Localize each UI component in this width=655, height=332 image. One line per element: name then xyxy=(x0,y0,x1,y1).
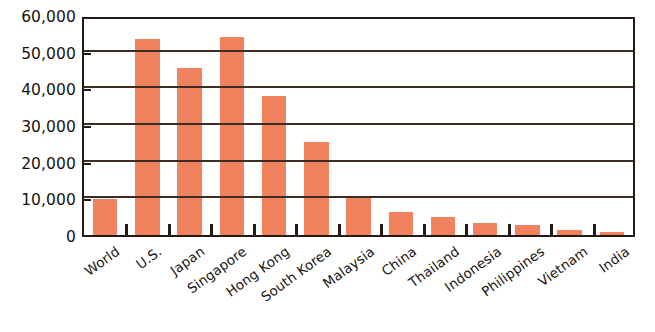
bar[interactable] xyxy=(93,199,117,235)
bar[interactable] xyxy=(600,232,624,235)
y-axis-label: 10,000 xyxy=(2,191,76,209)
x-axis-tick xyxy=(465,224,468,235)
x-axis-tick xyxy=(338,224,341,235)
y-axis-label: 40,000 xyxy=(2,81,76,99)
x-axis-tick xyxy=(168,224,171,235)
bar[interactable] xyxy=(177,68,201,235)
gridline xyxy=(84,50,633,52)
y-axis-label: 0 xyxy=(2,228,76,246)
plot-area xyxy=(82,17,635,237)
y-axis-label: 20,000 xyxy=(2,155,76,173)
bar[interactable] xyxy=(135,39,159,235)
x-axis-tick xyxy=(550,224,553,235)
x-axis-tick xyxy=(210,224,213,235)
x-axis-tick xyxy=(125,224,128,235)
bar[interactable] xyxy=(262,96,286,235)
y-axis-tick xyxy=(82,163,91,165)
y-axis-tick xyxy=(82,53,91,55)
x-axis-category-label: India xyxy=(596,243,633,276)
x-axis-tick xyxy=(593,224,596,235)
y-axis-tick xyxy=(82,89,91,91)
x-axis-tick xyxy=(508,224,511,235)
y-axis-tick xyxy=(82,126,91,128)
bar[interactable] xyxy=(431,217,455,235)
gridline xyxy=(84,123,633,125)
x-axis-tick xyxy=(253,224,256,235)
y-axis-label: 60,000 xyxy=(2,8,76,26)
x-axis-tick xyxy=(380,224,383,235)
x-axis-category-label: U.S. xyxy=(133,243,165,272)
y-axis-label: 30,000 xyxy=(2,118,76,136)
bar[interactable] xyxy=(220,37,244,235)
bar-chart: 010,00020,00030,00040,00050,00060,000 Wo… xyxy=(0,0,655,332)
bar[interactable] xyxy=(346,198,370,235)
bar[interactable] xyxy=(389,212,413,235)
x-axis-tick xyxy=(295,224,298,235)
x-axis-category-label: World xyxy=(81,243,122,279)
gridline xyxy=(84,160,633,162)
y-axis-tick xyxy=(82,199,91,201)
x-axis-tick xyxy=(423,224,426,235)
bar[interactable] xyxy=(473,223,497,235)
y-axis-label: 50,000 xyxy=(2,45,76,63)
gridline xyxy=(84,86,633,88)
bar[interactable] xyxy=(557,230,581,235)
gridline xyxy=(84,196,633,198)
bar[interactable] xyxy=(304,142,328,236)
bar[interactable] xyxy=(515,225,539,235)
